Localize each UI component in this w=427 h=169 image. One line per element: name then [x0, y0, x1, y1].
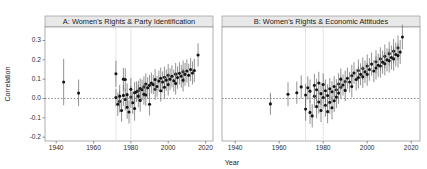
- data-point: [144, 93, 147, 96]
- data-point: [77, 92, 80, 95]
- data-point: [341, 83, 344, 86]
- data-point: [176, 76, 179, 79]
- y-tick-label: -0.2: [30, 133, 42, 140]
- x-axis-title: Year: [225, 158, 240, 167]
- data-point: [319, 109, 322, 112]
- data-point: [308, 90, 311, 93]
- x-tick-label: 1940: [49, 144, 64, 151]
- y-tick-label: -0.1: [30, 114, 42, 121]
- data-point: [324, 89, 327, 92]
- data-point: [124, 98, 127, 101]
- data-point: [172, 79, 175, 82]
- data-point: [295, 91, 298, 94]
- data-point: [167, 83, 170, 86]
- panel-title-A: A: Women's Rights & Party Identification: [63, 17, 195, 26]
- data-point: [383, 62, 386, 65]
- data-point: [116, 103, 119, 106]
- data-point: [337, 92, 340, 95]
- data-point: [308, 111, 311, 114]
- data-point: [352, 71, 355, 74]
- x-tick-label: 2020: [404, 144, 419, 151]
- data-point: [174, 82, 177, 85]
- data-point: [317, 81, 320, 84]
- data-point: [357, 76, 360, 79]
- data-point: [330, 90, 333, 93]
- data-point: [165, 79, 168, 82]
- data-point: [401, 35, 404, 38]
- data-point: [159, 89, 162, 92]
- data-point: [137, 95, 140, 98]
- data-point: [139, 99, 142, 102]
- x-tick-label: 1940: [228, 144, 243, 151]
- data-point: [372, 70, 375, 73]
- data-point: [328, 87, 331, 90]
- data-point: [319, 92, 322, 95]
- x-tick-label: 1980: [124, 144, 139, 151]
- data-point: [368, 68, 371, 71]
- data-point: [374, 66, 377, 69]
- data-point: [193, 69, 196, 72]
- data-point: [122, 94, 125, 97]
- data-point: [317, 100, 320, 103]
- x-tick-label: 1960: [272, 144, 287, 151]
- x-tick-label: 2000: [360, 144, 375, 151]
- data-point: [118, 95, 121, 98]
- x-tick-label: 1960: [86, 144, 101, 151]
- data-point: [339, 78, 342, 81]
- data-point: [346, 77, 349, 80]
- data-point: [154, 78, 157, 81]
- data-point: [359, 73, 362, 76]
- data-point: [127, 110, 130, 113]
- y-tick-label: 0.1: [32, 75, 41, 82]
- panel-area-A: [45, 27, 213, 141]
- data-point: [366, 73, 369, 76]
- data-point: [191, 71, 194, 74]
- data-point: [388, 59, 391, 62]
- data-point: [182, 79, 185, 82]
- data-point: [344, 89, 347, 92]
- data-point: [163, 86, 166, 89]
- data-point: [141, 88, 144, 91]
- data-point: [189, 68, 192, 71]
- panels-layer: A: Women's Rights & Party Identification…: [45, 16, 420, 141]
- x-tick-label: 2000: [161, 144, 176, 151]
- data-point: [315, 88, 318, 91]
- data-point: [157, 80, 160, 83]
- data-point: [330, 106, 333, 109]
- y-tick-label: 0.3: [32, 36, 41, 43]
- data-point: [361, 75, 364, 78]
- data-point: [315, 105, 318, 108]
- data-point: [114, 96, 117, 99]
- data-point: [348, 81, 351, 84]
- data-point: [185, 70, 188, 73]
- data-point: [183, 73, 186, 76]
- data-point: [304, 93, 307, 96]
- data-point: [152, 83, 155, 86]
- data-point: [322, 83, 325, 86]
- data-point: [170, 75, 173, 78]
- data-point: [187, 74, 190, 77]
- data-point: [129, 88, 132, 91]
- data-point: [155, 85, 158, 88]
- data-point: [178, 72, 181, 75]
- data-point: [180, 75, 183, 78]
- data-point: [306, 86, 309, 89]
- figure-container: A: Women's Rights & Party Identification…: [0, 0, 427, 169]
- data-point: [396, 54, 399, 57]
- y-tick-label: 0.0: [32, 94, 41, 101]
- data-point: [269, 102, 272, 105]
- x-tick-label: 1980: [316, 144, 331, 151]
- data-point: [326, 110, 329, 113]
- data-point: [120, 109, 123, 112]
- data-point: [333, 85, 336, 88]
- data-point: [148, 103, 151, 106]
- data-point: [333, 99, 336, 102]
- scatter-plot-svg: A: Women's Rights & Party Identification…: [0, 0, 427, 169]
- panel-title-B: B: Women's Rights & Economic Attitudes: [254, 17, 389, 26]
- data-point: [304, 108, 307, 111]
- data-point: [169, 78, 172, 81]
- data-point: [370, 63, 373, 66]
- data-point: [161, 81, 164, 84]
- data-point: [131, 101, 134, 104]
- data-point: [159, 77, 162, 80]
